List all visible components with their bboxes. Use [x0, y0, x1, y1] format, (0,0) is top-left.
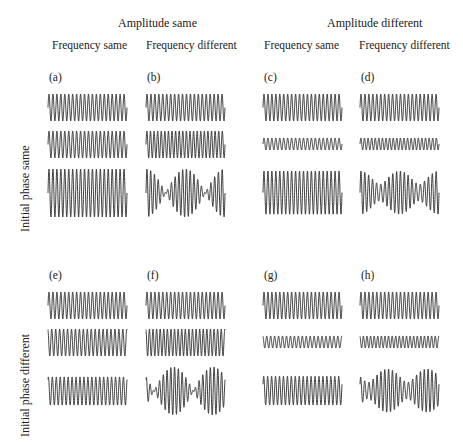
wave-2-f [146, 328, 225, 357]
wave-1-c [263, 93, 342, 122]
panel-label-f: (f) [147, 270, 159, 282]
column-header-label: Frequency different [359, 40, 450, 52]
row-label: Initial phase different [18, 334, 33, 437]
wave-2-g [263, 335, 342, 349]
wave-sum-a [48, 168, 127, 218]
wave-2-a [48, 130, 127, 159]
column-header-label: Frequency same [52, 40, 127, 52]
wave-1-g [263, 291, 342, 320]
panel-label-c: (c) [264, 72, 277, 84]
wave-sum-b [146, 168, 225, 218]
wave-2-c [263, 137, 342, 151]
wave-sum-f [146, 366, 225, 416]
column-group-label: Amplitude same [118, 17, 197, 29]
column-header-label: Frequency same [264, 40, 339, 52]
panel-label-g: (g) [264, 270, 277, 282]
panel-label-a: (a) [49, 72, 62, 84]
wave-2-d [360, 137, 439, 151]
wave-1-a [48, 93, 127, 122]
wave-2-b [146, 130, 225, 159]
wave-sum-g [263, 368, 342, 413]
row-label: Initial phase same [18, 145, 33, 232]
wave-sum-h [360, 368, 439, 413]
column-header-label: Frequency different [146, 40, 237, 52]
column-group-label: Amplitude different [327, 17, 422, 29]
wave-2-e [48, 328, 127, 357]
wave-1-f [146, 291, 225, 320]
wave-sum-c [263, 170, 342, 215]
panel-label-h: (h) [361, 270, 374, 282]
panel-label-b: (b) [147, 72, 160, 84]
wave-sum-e [48, 366, 127, 416]
wave-2-h [360, 335, 439, 349]
wave-1-h [360, 291, 439, 320]
panel-label-e: (e) [49, 270, 62, 282]
panel-label-d: (d) [361, 72, 374, 84]
wave-1-e [48, 291, 127, 320]
wave-1-d [360, 93, 439, 122]
wave-sum-d [360, 170, 439, 215]
wave-1-b [146, 93, 225, 122]
